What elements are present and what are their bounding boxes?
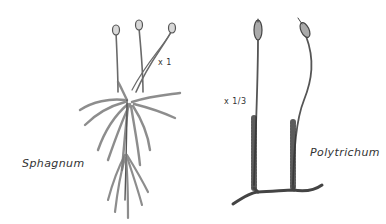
- polytrichum-scale: x 1/3: [224, 97, 247, 106]
- sphagnum-plant: [80, 20, 180, 218]
- sphagnum-label: Sphagnum: [22, 157, 85, 170]
- moss-illustration: [0, 0, 386, 224]
- sphagnum-scale: x 1: [158, 58, 172, 67]
- polytrichum-label: Polytrichum: [310, 146, 380, 159]
- polytrichum-plant: [233, 18, 322, 204]
